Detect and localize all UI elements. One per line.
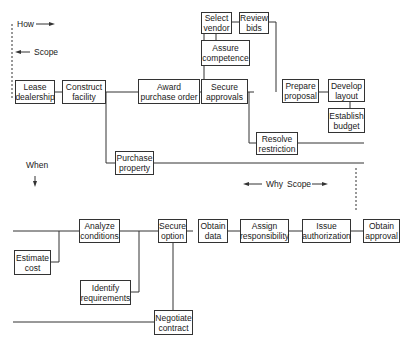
node-assure-competence[interactable]: Assure competence	[201, 40, 250, 66]
node-obtain-approval[interactable]: Obtain approval	[363, 219, 400, 243]
scope-right-label: Scope	[287, 179, 311, 189]
node-identify-requirements[interactable]: Identify requirements	[80, 280, 131, 305]
node-lease-dealership[interactable]: Lease dealership	[15, 80, 55, 104]
node-secure-option[interactable]: Secure option	[158, 219, 187, 243]
node-analyze-conditions[interactable]: Analyze conditions	[79, 219, 120, 243]
node-develop-layout[interactable]: Develop layout	[328, 79, 365, 102]
node-secure-approvals[interactable]: Secure approvals	[201, 79, 248, 104]
when-label: When	[26, 160, 48, 170]
node-purchase-property[interactable]: Purchase property	[115, 151, 154, 175]
node-award-purchase-order[interactable]: Award purchase order	[138, 79, 200, 104]
why-label: Why	[266, 179, 283, 189]
node-assign-responsibility[interactable]: Assign responsibility	[240, 219, 289, 243]
node-prepare-proposal[interactable]: Prepare proposal	[282, 79, 319, 103]
node-select-vendor[interactable]: Select vendor	[201, 12, 232, 34]
scope-left-label: Scope	[34, 47, 58, 57]
node-obtain-data[interactable]: Obtain data	[198, 219, 228, 243]
node-review-bids[interactable]: Review bids	[239, 12, 269, 34]
node-estimate-cost[interactable]: Estimate cost	[14, 250, 51, 275]
how-label: How	[17, 19, 34, 29]
node-negotiate-contract[interactable]: Negotiate contract	[154, 310, 193, 335]
node-issue-authorization[interactable]: Issue authorization	[302, 219, 351, 243]
node-establish-budget[interactable]: Establish budget	[328, 108, 365, 133]
node-construct-facility[interactable]: Construct facility	[62, 80, 106, 104]
node-resolve-restriction[interactable]: Resolve restriction	[256, 132, 298, 155]
